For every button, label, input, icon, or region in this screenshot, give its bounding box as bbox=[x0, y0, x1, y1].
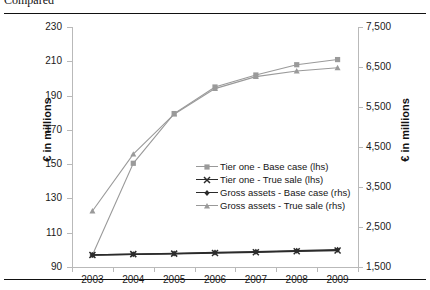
legend-marker-triangle-icon bbox=[196, 199, 218, 212]
legend-item: Gross assets - Base case (rhs) bbox=[196, 186, 350, 199]
caption-strip: Compared bbox=[0, 0, 430, 13]
data-point-square bbox=[294, 62, 299, 67]
legend-marker-cross-icon bbox=[196, 173, 218, 186]
series-plot bbox=[0, 14, 430, 278]
legend-item: Tier one - True sale (lhs) bbox=[196, 173, 350, 186]
legend-label: Gross assets - True sale (rhs) bbox=[218, 200, 345, 211]
legend-label: Tier one - True sale (lhs) bbox=[218, 174, 323, 185]
chart-legend: Tier one - Base case (lhs)Tier one - Tru… bbox=[196, 160, 350, 212]
data-point-square bbox=[335, 57, 340, 62]
legend-label: Tier one - Base case (lhs) bbox=[218, 161, 328, 172]
chart-area: 23021019017015013011090 7,5006,5005,5004… bbox=[0, 14, 430, 278]
legend-item: Gross assets - True sale (rhs) bbox=[196, 199, 350, 212]
data-point-diamond bbox=[204, 190, 209, 196]
legend-item: Tier one - Base case (lhs) bbox=[196, 160, 350, 173]
data-point-square bbox=[131, 161, 136, 166]
legend-label: Gross assets - Base case (rhs) bbox=[218, 187, 350, 198]
data-point-cross bbox=[204, 177, 210, 183]
caption-text: Compared bbox=[4, 0, 54, 8]
data-point-square bbox=[204, 164, 209, 169]
legend-marker-diamond-icon bbox=[196, 186, 218, 199]
legend-marker-square-icon bbox=[196, 160, 218, 173]
data-point-triangle bbox=[204, 203, 210, 208]
